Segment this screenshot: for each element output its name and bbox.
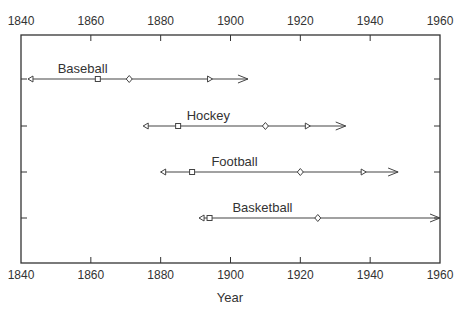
x-tick-label-top: 1900 — [217, 14, 244, 28]
start-triangle-icon — [161, 169, 166, 175]
series-football: Football — [161, 154, 398, 176]
end-triangle-icon — [208, 76, 213, 82]
end-triangle-icon — [361, 169, 366, 175]
series-label: Basketball — [232, 200, 292, 215]
series-basketball: Basketball — [199, 200, 440, 222]
diamond-marker-icon — [126, 76, 132, 83]
timeline-chart: 1840184018601860188018801900190019201920… — [0, 0, 468, 317]
start-triangle-icon — [28, 76, 33, 82]
series-label: Hockey — [187, 108, 231, 123]
x-tick-label-bottom: 1920 — [287, 268, 314, 282]
start-triangle-icon — [199, 215, 204, 221]
x-tick-label-bottom: 1840 — [8, 268, 35, 282]
x-tick-label-bottom: 1860 — [77, 268, 104, 282]
x-tick-label-top: 1880 — [147, 14, 174, 28]
square-marker-icon — [95, 77, 100, 82]
series-group: BaseballHockeyFootballBasketball — [28, 61, 440, 222]
x-tick-label-bottom: 1960 — [427, 268, 454, 282]
x-tick-label-top: 1840 — [8, 14, 35, 28]
square-marker-icon — [190, 170, 195, 175]
axis-ticks: 1840184018601860188018801900190019201920… — [8, 14, 454, 282]
series-label: Baseball — [58, 61, 108, 76]
x-tick-label-top: 1940 — [357, 14, 384, 28]
x-tick-label-bottom: 1880 — [147, 268, 174, 282]
diamond-marker-icon — [262, 123, 268, 130]
x-tick-label-top: 1960 — [427, 14, 454, 28]
start-triangle-icon — [143, 123, 148, 129]
end-triangle-icon — [305, 123, 310, 129]
x-tick-label-bottom: 1940 — [357, 268, 384, 282]
square-marker-icon — [207, 216, 212, 221]
diamond-marker-icon — [297, 169, 303, 176]
series-baseball: Baseball — [28, 61, 248, 83]
x-tick-label-bottom: 1900 — [217, 268, 244, 282]
x-tick-label-top: 1860 — [77, 14, 104, 28]
x-axis-label: Year — [217, 290, 244, 305]
diamond-marker-icon — [315, 215, 321, 222]
x-tick-label-top: 1920 — [287, 14, 314, 28]
series-label: Football — [211, 154, 257, 169]
series-hockey: Hockey — [143, 108, 346, 130]
square-marker-icon — [176, 124, 181, 129]
